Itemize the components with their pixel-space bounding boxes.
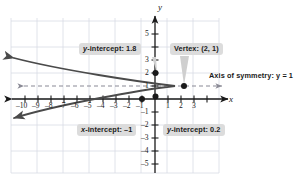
x-tick-label-3: 3 xyxy=(192,102,196,110)
callout-x-intercept-text: -intercept: –1 xyxy=(85,125,132,134)
y-tick-label-2: 2 xyxy=(145,69,149,77)
point-y-intercept-upper xyxy=(153,70,159,76)
x-tick-label-1: 1 xyxy=(166,102,170,110)
x-tick-label--7: –7 xyxy=(58,102,66,110)
callout-y-intercept-lower: y-intercept: 0.2 xyxy=(163,124,225,136)
x-tick-label--6: –6 xyxy=(71,102,79,110)
point-vertex xyxy=(181,83,187,89)
x-tick-label--9: –9 xyxy=(32,102,40,110)
callout-y-intercept-upper: y-intercept: 1.8 xyxy=(79,43,141,55)
coordinate-plane-svg xyxy=(0,0,307,191)
callout-y-intercept-lower-text: -intercept: 0.2 xyxy=(171,125,220,134)
y-tick-label--1: –1 xyxy=(141,108,149,116)
y-tick-label-1: 1 xyxy=(145,82,149,90)
callout-axis-of-symmetry-text: Axis of symmetry: y = 1 xyxy=(209,71,293,80)
x-tick-label--8: –8 xyxy=(45,102,53,110)
x-tick-label--10: –10 xyxy=(16,102,27,110)
x-axis-label: x xyxy=(229,94,233,104)
point-y-intercept-lower xyxy=(153,94,159,100)
y-axis-label: y xyxy=(158,2,162,12)
y-tick-label--2: –2 xyxy=(141,121,149,129)
x-tick-label--5: –5 xyxy=(84,102,92,110)
y-tick-label--3: –3 xyxy=(141,134,149,142)
y-tick-label--4: –4 xyxy=(141,147,149,155)
callout-axis-of-symmetry: Axis of symmetry: y = 1 xyxy=(205,70,297,82)
y-tick-label-5: 5 xyxy=(145,30,149,38)
x-tick-label--4: –4 xyxy=(97,102,105,110)
x-tick-label--3: –3 xyxy=(110,102,118,110)
parabola-graph-figure: x y –10 –9 –8 –7 –6 –5 –4 –3 –2 –1 1 2 3… xyxy=(0,0,307,191)
callout-x-intercept: x-intercept: –1 xyxy=(77,124,136,136)
callout-vertex: Vertex: (2, 1) xyxy=(170,43,223,55)
callout-vertex-text: Vertex: (2, 1) xyxy=(174,44,219,53)
y-tick-label-3: 3 xyxy=(145,56,149,64)
x-tick-label--2: –2 xyxy=(123,102,131,110)
y-tick-label--5: –5 xyxy=(141,160,149,168)
x-tick-label-2: 2 xyxy=(179,102,183,110)
callout-y-intercept-upper-text: -intercept: 1.8 xyxy=(87,44,136,53)
